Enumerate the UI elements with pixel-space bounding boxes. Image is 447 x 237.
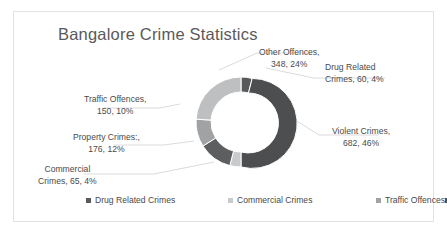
donut-svg xyxy=(182,63,300,181)
chart-legend: Drug Related Crimes Commercial Crimes Tr… xyxy=(86,193,376,207)
data-label-violent-line2: 682, 46% xyxy=(332,138,390,150)
donut-chart[interactable] xyxy=(182,63,300,181)
donut-slices xyxy=(196,77,297,168)
data-label-drug-related-line2: Crimes, 60, 4% xyxy=(325,74,384,86)
legend-label: Commercial Crimes xyxy=(237,195,312,205)
data-label-property-line1: Property Crimes:, xyxy=(73,132,140,142)
data-label-commercial-line2: Crimes, 65, 4% xyxy=(38,176,97,188)
legend-swatch-icon xyxy=(228,198,233,203)
data-label-property-crimes: Property Crimes:, 176, 12% xyxy=(73,132,140,155)
data-label-traffic-offences: Traffic Offences, 150, 10% xyxy=(84,94,146,117)
data-label-drug-related-line1: Drug Related xyxy=(325,62,376,72)
legend-item-commercial-crimes[interactable]: Commercial Crimes xyxy=(228,195,376,205)
data-label-traffic-line2: 150, 10% xyxy=(84,106,146,118)
legend-label: Traffic Offences xyxy=(385,195,445,205)
data-label-other-offences-line2: 348, 24% xyxy=(259,59,320,71)
data-label-commercial-line1: Commercial xyxy=(44,164,90,174)
legend-swatch-icon xyxy=(376,198,381,203)
data-label-violent-line1: Violent Crimes, xyxy=(332,126,390,136)
slice-violent-crimes[interactable] xyxy=(241,78,297,168)
legend-swatch-icon xyxy=(86,198,91,203)
legend-item-traffic-offences[interactable]: Traffic Offences xyxy=(376,195,445,205)
slice-other-offences[interactable] xyxy=(196,77,241,120)
data-label-drug-related-crimes: Drug Related Crimes, 60, 4% xyxy=(325,62,384,85)
data-label-other-offences: Other Offences, 348, 24% xyxy=(259,47,320,70)
data-label-other-offences-line1: Other Offences, xyxy=(259,47,320,57)
legend-item-drug-related-crimes[interactable]: Drug Related Crimes xyxy=(86,195,228,205)
data-label-commercial-crimes: Commercial Crimes, 65, 4% xyxy=(38,164,97,187)
data-label-property-line2: 176, 12% xyxy=(73,144,140,156)
legend-label: Drug Related Crimes xyxy=(95,195,175,205)
data-label-violent-crimes: Violent Crimes, 682, 46% xyxy=(332,126,390,149)
chart-frame[interactable]: Bangalore Crime Statistics xyxy=(13,11,434,222)
data-label-traffic-line1: Traffic Offences, xyxy=(84,94,146,104)
